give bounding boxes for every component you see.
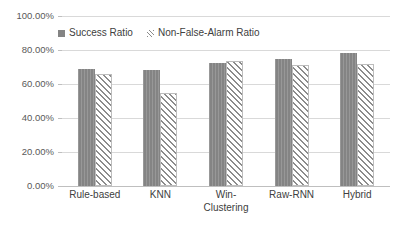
legend-entry: Non-False-Alarm Ratio <box>147 27 260 39</box>
bar-group <box>78 16 112 186</box>
bar-group <box>275 16 309 186</box>
y-axis: 0.00%20.00%40.00%60.00%80.00%100.00% <box>0 0 62 225</box>
y-axis-tick-label: 100.00% <box>16 11 54 21</box>
bar <box>95 74 112 186</box>
x-axis-tick-label: KNN <box>128 189 194 202</box>
chart-legend: Success RatioNon-False-Alarm Ratio <box>58 27 260 39</box>
bar <box>226 61 243 186</box>
bar <box>292 65 309 186</box>
y-axis-tick-label: 40.00% <box>22 113 54 123</box>
y-axis-tick-label: 60.00% <box>22 79 54 89</box>
y-axis-tick-label: 80.00% <box>22 45 54 55</box>
x-axis-tick-label: Raw-RNN <box>259 189 325 202</box>
y-axis-tick-label: 20.00% <box>22 147 54 157</box>
bar-chart: 0.00%20.00%40.00%60.00%80.00%100.00% Rul… <box>0 0 400 225</box>
bar <box>78 69 95 186</box>
bar <box>340 53 357 186</box>
legend-swatch-icon <box>58 30 65 37</box>
y-axis-tick-label: 0.00% <box>27 181 54 191</box>
x-axis-tick-label: Hybrid <box>324 189 390 202</box>
x-axis-tick-label: Rule-based <box>62 189 128 202</box>
legend-label: Non-False-Alarm Ratio <box>158 27 260 39</box>
x-axis: Rule-basedKNNWin- ClusteringRaw-RNNHybri… <box>62 189 390 223</box>
bar <box>275 59 292 187</box>
x-axis-tick-label: Win- Clustering <box>193 189 259 214</box>
bar <box>357 64 374 186</box>
legend-label: Success Ratio <box>69 27 133 39</box>
bar-group <box>143 16 177 186</box>
bar <box>143 70 160 186</box>
legend-swatch-icon <box>147 30 154 37</box>
plot-area <box>62 16 390 186</box>
bar <box>160 93 177 187</box>
bar-group <box>340 16 374 186</box>
legend-entry: Success Ratio <box>58 27 133 39</box>
gridline <box>62 186 390 187</box>
bar <box>209 63 226 186</box>
bar-group <box>209 16 243 186</box>
